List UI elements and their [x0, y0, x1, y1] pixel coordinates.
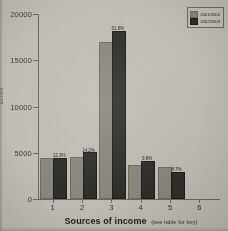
- x-axis-title: Sources of income (see table for key): [38, 210, 224, 228]
- x-axis-tick: [141, 199, 142, 203]
- y-axis-tick: [33, 107, 38, 108]
- bar-2001-2002-cat1: [40, 158, 54, 199]
- x-axis-tick: [170, 199, 171, 203]
- x-axis-line: [38, 199, 220, 200]
- legend-item: 2002/2003: [190, 18, 220, 24]
- bar-2002-2003-cat1: [53, 158, 67, 199]
- y-axis-tick: [33, 60, 38, 61]
- bar-2002-2003-cat5: [171, 172, 185, 199]
- bar-2001-2002-cat3: [99, 42, 113, 199]
- bar-2002-2003-cat4: [141, 161, 155, 199]
- legend-swatch-icon: [190, 18, 198, 25]
- y-axis-tick-label: 10000: [10, 102, 32, 111]
- bar-2001-2002-cat2: [70, 157, 84, 199]
- legend-label: 2001/2002: [200, 12, 220, 17]
- x-axis-tick: [53, 199, 54, 203]
- x-axis-title-note: (see table for key): [151, 219, 197, 225]
- x-axis-tick: [82, 199, 83, 203]
- y-axis-tick-label: 0: [28, 195, 32, 204]
- bar-2002-2003-cat3: [112, 31, 126, 200]
- y-axis-tick: [33, 153, 38, 154]
- bar-value-label: 51.6%: [112, 26, 125, 31]
- legend-item: 2001/2002: [190, 11, 220, 17]
- bar-2002-2003-cat2: [83, 152, 97, 199]
- x-axis-tick: [111, 199, 112, 203]
- y-axis-tick-label: 15000: [10, 56, 32, 65]
- bar-value-label: 12.3%: [53, 153, 66, 158]
- x-axis-tick: [199, 199, 200, 203]
- bar-2001-2002-cat4: [128, 165, 142, 199]
- bar-value-label: 9.8%: [142, 156, 152, 161]
- y-axis-line: [38, 14, 39, 200]
- legend: 2001/20022002/2003: [187, 7, 224, 28]
- bar-value-label: 8.7%: [171, 167, 181, 172]
- bar-value-label: 14.2%: [82, 148, 95, 153]
- x-axis-title-main: Sources of income: [64, 216, 146, 226]
- scan-edge-bottom: [0, 227, 228, 231]
- y-axis-tick-label: 5000: [15, 148, 33, 157]
- bar-chart-figure: 05000100001500020000 £000s 12.3%14.2%51.…: [0, 0, 228, 231]
- y-axis-tick: [33, 14, 38, 15]
- bar-2001-2002-cat5: [158, 167, 172, 199]
- y-axis-tick: [33, 199, 38, 200]
- y-axis-tick-label: 20000: [10, 10, 32, 19]
- scan-edge-left: [0, 0, 3, 231]
- legend-swatch-icon: [190, 11, 198, 18]
- y-axis-labels: 05000100001500020000: [0, 0, 32, 231]
- legend-label: 2002/2003: [200, 19, 220, 24]
- plot-area: 12.3%14.2%51.6%9.8%8.7%: [38, 14, 214, 199]
